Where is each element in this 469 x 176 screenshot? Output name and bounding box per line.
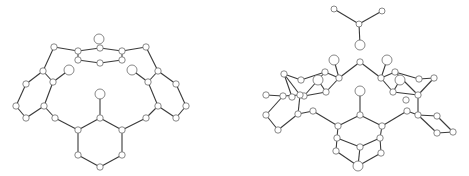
atom [119, 152, 125, 158]
bond [360, 62, 381, 78]
bond [266, 96, 283, 115]
atom [97, 45, 103, 51]
atom [297, 92, 303, 98]
atom [377, 135, 383, 141]
atom [119, 127, 125, 133]
heteroatom [313, 75, 323, 85]
atom [298, 77, 304, 83]
atom [40, 68, 46, 74]
atom [75, 152, 81, 158]
atom [434, 113, 440, 119]
atom [295, 111, 301, 117]
atom [23, 81, 29, 87]
atom [331, 6, 337, 12]
molecule-figure [0, 0, 469, 176]
heteroatom [64, 65, 74, 75]
atom [334, 135, 340, 141]
atom [431, 75, 437, 81]
atom [75, 127, 81, 133]
atom [335, 123, 341, 129]
bond [122, 118, 146, 130]
bond [393, 92, 418, 95]
atom [155, 68, 161, 74]
heteroatom [395, 75, 405, 85]
atom [357, 112, 363, 118]
heteroatom [95, 89, 105, 99]
right-molecule [263, 6, 456, 171]
structure-canvas [0, 0, 469, 176]
bond [16, 84, 26, 106]
atom [50, 79, 56, 85]
atom [41, 103, 47, 109]
atom [183, 103, 189, 109]
atom [97, 115, 103, 121]
atom [173, 115, 179, 121]
bond [54, 47, 78, 51]
bond [176, 84, 186, 106]
atom [357, 59, 363, 65]
bond [43, 47, 54, 71]
atom [379, 123, 385, 129]
bond [382, 111, 407, 126]
atom [378, 150, 384, 156]
atom [415, 92, 421, 98]
heteroatom [355, 86, 365, 96]
atom [356, 21, 362, 27]
atom [434, 130, 440, 136]
atom [404, 108, 410, 114]
bond [100, 155, 122, 167]
atom [23, 115, 29, 121]
atom [13, 103, 19, 109]
atom [289, 94, 295, 100]
atom [310, 108, 316, 114]
atom [155, 103, 161, 109]
atom [75, 48, 81, 54]
atom [52, 115, 58, 121]
bond [338, 115, 360, 126]
bond [78, 118, 100, 130]
atom [119, 48, 125, 54]
atom [75, 57, 81, 63]
heteroatom [94, 34, 104, 44]
bond [44, 82, 53, 106]
atom [281, 71, 287, 77]
atom [415, 112, 421, 118]
bond [78, 155, 100, 167]
bond [122, 47, 146, 51]
heteroatom [329, 55, 339, 65]
atom [357, 144, 363, 150]
atom [333, 148, 339, 154]
bond [313, 111, 338, 126]
atom [143, 44, 149, 50]
bond [339, 62, 360, 78]
bond [100, 118, 122, 130]
atom [97, 164, 103, 170]
atom [392, 69, 398, 75]
heteroatom [355, 40, 365, 50]
heteroatom [382, 55, 392, 65]
atom [323, 89, 329, 95]
atom [280, 93, 286, 99]
heteroatom [127, 65, 137, 75]
atom [403, 97, 409, 103]
atom [263, 92, 269, 98]
atom [119, 57, 125, 63]
bond [359, 11, 382, 24]
atom [143, 115, 149, 121]
bond [337, 138, 360, 147]
bond [278, 114, 298, 130]
atom [390, 89, 396, 95]
bond [146, 47, 158, 71]
atom [378, 75, 384, 81]
atom [416, 76, 422, 82]
atom [336, 75, 342, 81]
bond [334, 9, 359, 24]
atom [379, 8, 385, 14]
bond [360, 115, 382, 126]
atom [263, 112, 269, 118]
left-molecule [13, 34, 189, 170]
atom [450, 129, 456, 135]
atom [51, 44, 57, 50]
atom [145, 79, 151, 85]
atom [322, 69, 328, 75]
